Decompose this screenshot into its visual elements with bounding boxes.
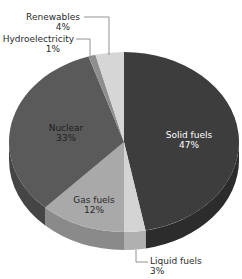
leader-line-liquid-fuels (136, 250, 148, 262)
label-renewables-name: Renewables (22, 12, 80, 22)
label-renewables-pct: 4% (22, 22, 80, 32)
leader-line-hydroelectricity (76, 39, 90, 57)
label-liquid-fuels: Liquid fuels 3% (150, 256, 220, 276)
label-nuclear: Nuclear 33% (36, 123, 96, 143)
label-hydroelectricity-name: Hydroelectricity (0, 34, 74, 44)
label-solid-fuels-name: Solid fuels (154, 130, 224, 140)
label-hydroelectricity: Hydroelectricity 1% (0, 34, 74, 54)
label-solid-fuels: Solid fuels 47% (154, 130, 224, 150)
label-liquid-fuels-pct: 3% (150, 266, 220, 276)
label-gas-fuels-pct: 12% (66, 205, 122, 215)
label-hydroelectricity-pct: 1% (0, 44, 74, 54)
label-nuclear-pct: 33% (36, 133, 96, 143)
label-liquid-fuels-name: Liquid fuels (150, 256, 220, 266)
label-renewables: Renewables 4% (22, 12, 80, 32)
label-gas-fuels-name: Gas fuels (66, 195, 122, 205)
label-nuclear-name: Nuclear (36, 123, 96, 133)
pie-side-liquid-fuels (124, 230, 146, 250)
label-gas-fuels: Gas fuels 12% (66, 195, 122, 215)
label-solid-fuels-pct: 47% (154, 140, 224, 150)
leader-line-renewables (84, 17, 109, 55)
